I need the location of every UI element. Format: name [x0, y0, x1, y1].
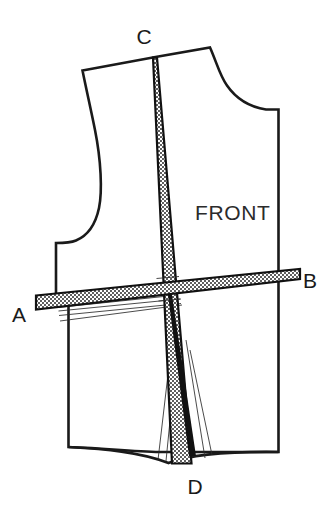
pattern-diagram-root: A B C D FRONT: [0, 0, 322, 510]
label-a: A: [12, 303, 26, 326]
vertical-band-cd: [153, 58, 196, 464]
pattern-drawing: A B C D FRONT: [0, 0, 322, 510]
label-d: D: [187, 475, 202, 498]
label-c: C: [136, 25, 151, 48]
label-front: FRONT: [195, 201, 270, 224]
label-b: B: [303, 269, 317, 292]
